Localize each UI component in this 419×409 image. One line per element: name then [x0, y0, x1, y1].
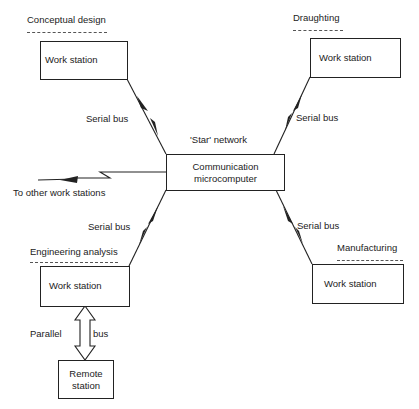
workstation-draughting: Work station: [310, 38, 401, 78]
network-type-label: 'Star' network: [190, 134, 247, 145]
hub-label-line2: microcomputer: [194, 173, 257, 185]
workstation-conceptual-design: Work station: [40, 41, 128, 80]
serial-bus-label-manufacturing: Serial bus: [297, 220, 339, 231]
bus-label: bus: [93, 328, 108, 339]
serial-link-engineering: [129, 190, 166, 266]
section-underline: [27, 32, 107, 33]
section-label-manufacturing: Manufacturing: [337, 242, 397, 253]
star-network-diagram: Conceptual design Work station Serial bu…: [0, 0, 419, 409]
workstation-engineering-analysis: Work station: [40, 266, 130, 307]
external-link-label: To other work stations: [13, 187, 105, 198]
remote-label-line2: station: [72, 380, 100, 392]
external-link-arrow: [38, 172, 166, 183]
remote-label-line1: Remote: [69, 368, 102, 380]
section-label-engineering-analysis: Engineering analysis: [30, 246, 118, 257]
section-underline: [30, 262, 118, 263]
workstation-label: Work station: [324, 278, 377, 290]
section-underline: [293, 30, 343, 31]
arrowhead-up-icon: [285, 113, 292, 131]
parallel-label: Parallel: [30, 328, 62, 339]
workstation-label: Work station: [319, 52, 372, 64]
arrowhead-up-icon: [139, 227, 147, 245]
workstation-label: Work station: [49, 280, 102, 292]
serial-bus-label-conceptual: Serial bus: [86, 113, 128, 124]
parallel-bus-arrow: [75, 306, 95, 360]
arrowhead-left-icon: [60, 176, 78, 183]
serial-bus-label-engineering: Serial bus: [88, 221, 130, 232]
serial-bus-label-draughting: Serial bus: [296, 112, 338, 123]
communication-microcomputer-hub: Communication microcomputer: [166, 154, 285, 191]
serial-link-conceptual: [127, 79, 166, 154]
remote-station: Remote station: [58, 360, 114, 399]
hub-label-line1: Communication: [193, 161, 259, 173]
section-label-draughting: Draughting: [293, 12, 339, 23]
workstation-label: Work station: [45, 54, 98, 66]
arrowhead-up-icon: [150, 118, 158, 136]
workstation-manufacturing: Work station: [312, 264, 404, 304]
section-underline: [337, 260, 403, 261]
section-label-conceptual-design: Conceptual design: [27, 14, 106, 25]
